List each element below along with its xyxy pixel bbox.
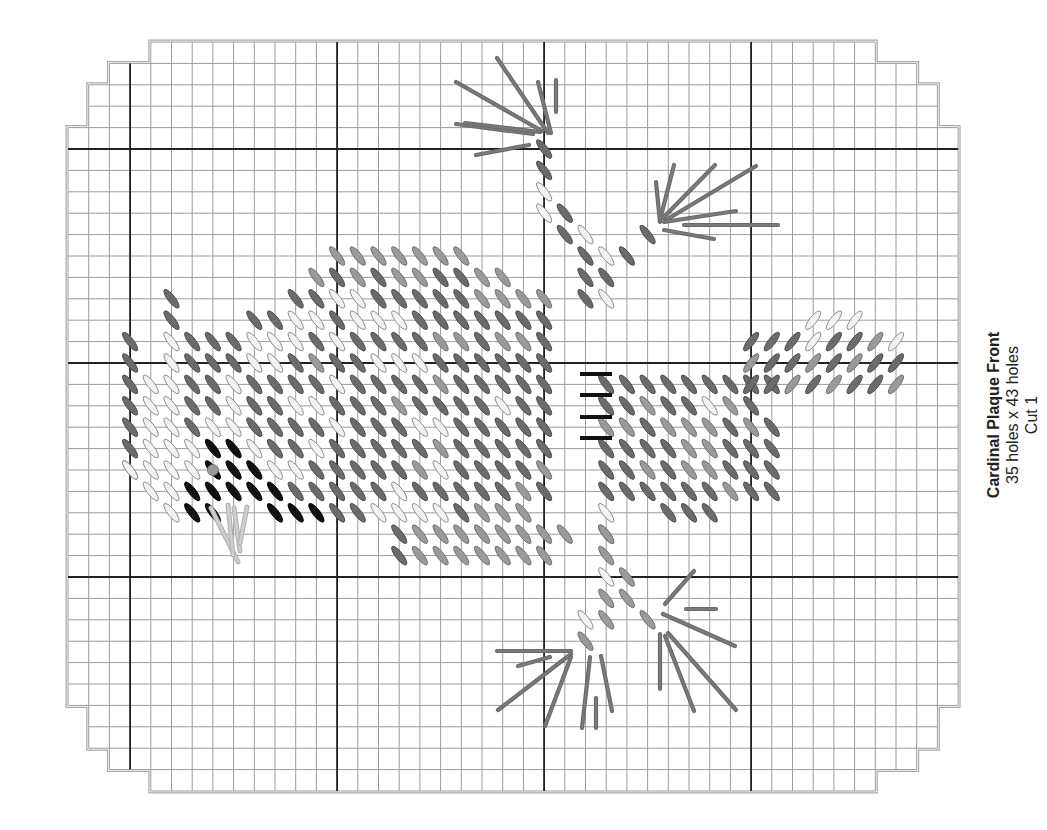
needlepoint-chart [0,0,1047,830]
caption-title: Cardinal Plaque Front [984,332,1003,498]
chart-caption: Cardinal Plaque Front 35 holes x 43 hole… [984,332,1041,498]
plastic-canvas-outline [68,42,958,791]
caption-cut: Cut 1 [1022,332,1041,498]
caption-size: 35 holes x 43 holes [1003,332,1022,498]
